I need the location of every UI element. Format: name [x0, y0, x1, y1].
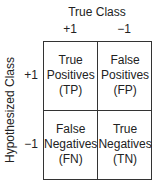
cell-abbr: (FN) — [59, 152, 83, 167]
cell-false-positives: False Positives (FP) — [98, 42, 151, 111]
confusion-matrix: True Positives (TP) False Positives (FP)… — [43, 41, 152, 180]
row-label-positive: +1 — [22, 68, 40, 82]
hypothesized-class-title: Hypothesized Class — [3, 57, 17, 163]
cell-line1: False — [56, 122, 85, 137]
column-label-negative: −1 — [97, 22, 151, 36]
cell-abbr: (FP) — [113, 83, 136, 98]
cell-abbr: (TN) — [113, 152, 137, 167]
cell-line1: True — [113, 122, 137, 137]
cell-true-negatives: True Negatives (TN) — [98, 111, 151, 180]
cell-line1: True — [59, 53, 83, 68]
cell-true-positives: True Positives (TP) — [44, 42, 98, 111]
cell-line2: Negatives — [44, 137, 97, 152]
cell-false-negatives: False Negatives (FN) — [44, 111, 98, 180]
cell-abbr: (TP) — [59, 83, 82, 98]
cell-line2: Positives — [101, 68, 149, 83]
cell-line1: False — [110, 53, 139, 68]
cell-line2: Positives — [47, 68, 95, 83]
true-class-title: True Class — [43, 5, 151, 19]
row-label-negative: −1 — [22, 137, 40, 151]
column-label-positive: +1 — [43, 22, 97, 36]
cell-line2: Negatives — [98, 137, 151, 152]
